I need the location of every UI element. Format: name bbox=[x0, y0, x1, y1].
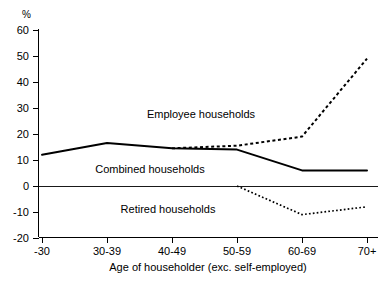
series-annotations: Employee householdsCombined householdsRe… bbox=[95, 108, 255, 215]
y-tick-label: 40 bbox=[17, 76, 29, 88]
y-tick-label: 20 bbox=[17, 128, 29, 140]
series-line-employee-households bbox=[172, 59, 367, 149]
x-tick-label: 50-59 bbox=[223, 245, 251, 257]
data-series-group bbox=[42, 59, 367, 215]
x-tick-label: 60-69 bbox=[288, 245, 316, 257]
x-axis-ticks: -3030-3940-4950-5960-6970+ bbox=[34, 238, 376, 258]
y-tick-label: -10 bbox=[13, 206, 29, 218]
y-tick-label: 60 bbox=[17, 24, 29, 36]
y-tick-label: 10 bbox=[17, 154, 29, 166]
series-label-combined-households: Combined households bbox=[95, 163, 205, 175]
y-axis-unit-label: % bbox=[22, 9, 31, 20]
chart-container: % 6050403020100-10-20 -3030-3940-4950-59… bbox=[0, 0, 389, 282]
line-chart: % 6050403020100-10-20 -3030-3940-4950-59… bbox=[0, 0, 389, 282]
x-axis-title: Age of householder (exc. self-employed) bbox=[109, 261, 307, 273]
series-line-retired-households bbox=[237, 186, 367, 215]
series-label-retired-households: Retired households bbox=[121, 203, 216, 215]
x-tick-label: -30 bbox=[34, 245, 50, 257]
y-tick-label: 30 bbox=[17, 102, 29, 114]
y-tick-label: -20 bbox=[13, 232, 29, 244]
y-tick-label: 0 bbox=[23, 180, 29, 192]
y-tick-label: 50 bbox=[17, 50, 29, 62]
x-tick-label: 40-49 bbox=[158, 245, 186, 257]
x-tick-label: 30-39 bbox=[93, 245, 121, 257]
x-tick-label: 70+ bbox=[358, 245, 377, 257]
y-axis-ticks: 6050403020100-10-20 bbox=[13, 24, 38, 244]
series-label-employee-households: Employee households bbox=[147, 108, 256, 120]
